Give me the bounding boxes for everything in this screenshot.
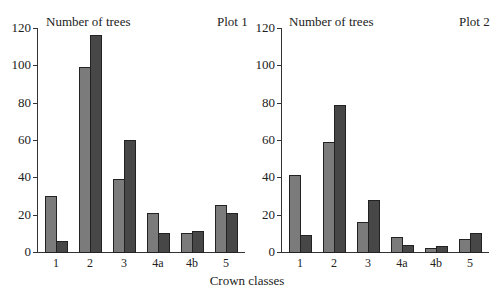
- bar: [470, 233, 482, 253]
- x-tick-label: 5: [455, 256, 485, 271]
- y-tick-label: 0: [245, 244, 275, 260]
- plot-title: Plot 2: [459, 14, 490, 30]
- y-tick-label: 120: [245, 20, 275, 36]
- y-tick: [277, 252, 281, 253]
- x-tick-label: 4b: [421, 256, 451, 271]
- y-tick-label: 100: [245, 57, 275, 73]
- y-tick: [277, 28, 281, 29]
- plot-2: Number of treesPlot 20204060801001201234…: [0, 0, 494, 297]
- y-tick-label: 80: [245, 95, 275, 111]
- y-tick: [277, 177, 281, 178]
- y-axis-line: [281, 28, 282, 253]
- bar: [300, 235, 312, 253]
- x-tick-label: 4a: [387, 256, 417, 271]
- bar: [334, 105, 346, 253]
- y-tick: [277, 215, 281, 216]
- y-tick-label: 60: [245, 132, 275, 148]
- y-tick: [277, 140, 281, 141]
- y-tick-label: 20: [245, 207, 275, 223]
- x-axis-title: Crown classes: [0, 273, 494, 289]
- x-tick-label: 2: [319, 256, 349, 271]
- x-tick-label: 3: [353, 256, 383, 271]
- y-axis-title: Number of trees: [289, 14, 373, 30]
- bar: [368, 200, 380, 253]
- x-axis-line: [281, 252, 489, 253]
- bar: [436, 246, 448, 253]
- y-tick-label: 40: [245, 169, 275, 185]
- bar: [402, 245, 414, 253]
- y-tick: [277, 65, 281, 66]
- y-tick: [277, 103, 281, 104]
- x-tick-label: 1: [285, 256, 315, 271]
